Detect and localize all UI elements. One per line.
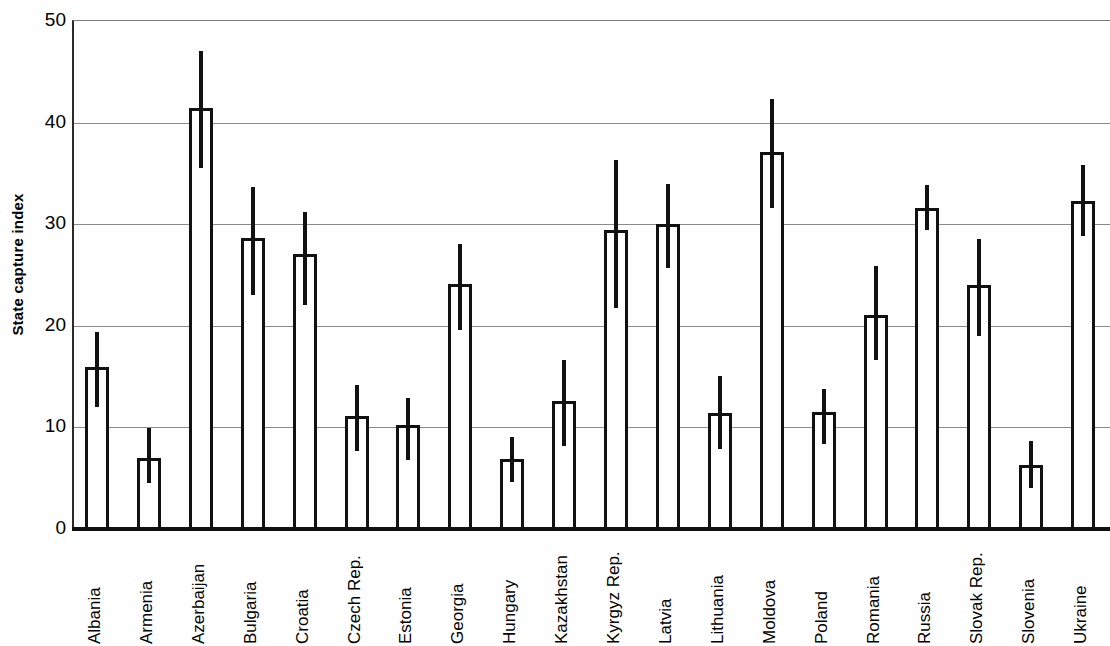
x-tick-label-text: Poland xyxy=(813,530,830,646)
error-bar-lithuania xyxy=(718,376,722,449)
x-tick-label-text: Romania xyxy=(865,530,882,646)
x-tick-label-text: Czech Rep. xyxy=(346,530,363,646)
gridline-30 xyxy=(74,224,1110,225)
x-tick-label-text: Georgia xyxy=(449,530,466,646)
x-axis-category-labels: AlbaniaArmeniaAzerbaijanBulgariaCroatiaC… xyxy=(72,532,1110,646)
error-bar-ukraine xyxy=(1081,165,1085,236)
error-bar-armenia xyxy=(147,428,151,483)
y-tick-label-0: 0 xyxy=(30,518,66,537)
error-bar-romania xyxy=(874,266,878,360)
error-bar-croatia xyxy=(303,212,307,305)
error-bar-czech-rep xyxy=(355,385,359,451)
x-tick-label-text: Bulgaria xyxy=(242,530,259,646)
gridline-20 xyxy=(74,326,1110,327)
plot-area xyxy=(72,20,1110,528)
error-bar-slovenia xyxy=(1029,441,1033,489)
x-tick-label-text: Latvia xyxy=(657,530,674,646)
x-tick-label-text: Lithuania xyxy=(709,530,726,646)
error-bar-azerbaijan xyxy=(199,51,203,168)
bar-moldova xyxy=(760,152,784,529)
error-bar-russia xyxy=(925,185,929,231)
y-tick-label-20: 20 xyxy=(30,315,66,334)
x-tick-label-text: Kyrgyz Rep. xyxy=(605,530,622,646)
error-bar-bulgaria xyxy=(251,187,255,296)
gridline-10 xyxy=(74,427,1110,428)
bar-latvia xyxy=(656,224,680,529)
error-bar-latvia xyxy=(666,184,670,268)
y-tick-label-50: 50 xyxy=(30,10,66,29)
error-bar-slovak-rep xyxy=(977,239,981,336)
bar-russia xyxy=(915,208,939,529)
x-tick-label-text: Estonia xyxy=(397,530,414,646)
bar-azerbaijan xyxy=(189,108,213,529)
error-bar-kyrgyz-rep xyxy=(614,160,618,307)
x-tick-label-text: Hungary xyxy=(501,530,518,646)
error-bar-georgia xyxy=(458,244,462,330)
bar-ukraine xyxy=(1071,201,1095,529)
state-capture-index-chart: State capture index 01020304050 AlbaniaA… xyxy=(0,0,1110,646)
error-bar-kazakhstan xyxy=(562,360,566,445)
y-tick-label-40: 40 xyxy=(30,112,66,131)
x-tick-label-ukraine: Ukraine xyxy=(1072,532,1110,646)
x-tick-label-text: Azerbaijan xyxy=(190,530,207,646)
error-bar-hungary xyxy=(510,437,514,483)
x-tick-label-text: Croatia xyxy=(294,530,311,646)
error-bar-poland xyxy=(822,389,826,444)
error-bar-albania xyxy=(95,332,99,407)
y-tick-label-30: 30 xyxy=(30,213,66,232)
x-tick-label-text: Ukraine xyxy=(1072,530,1089,646)
x-tick-label-text: Slovenia xyxy=(1020,530,1037,646)
error-bar-estonia xyxy=(406,398,410,460)
x-tick-label-text: Slovak Rep. xyxy=(968,530,985,646)
x-tick-label-text: Russia xyxy=(916,530,933,646)
x-tick-label-text: Armenia xyxy=(138,530,155,646)
x-tick-label-text: Albania xyxy=(86,530,103,646)
x-axis-baseline xyxy=(72,527,1110,531)
x-tick-label-text: Moldova xyxy=(761,530,778,646)
y-axis-tick-labels: 01020304050 xyxy=(0,0,66,560)
error-bar-moldova xyxy=(770,99,774,208)
y-tick-label-10: 10 xyxy=(30,416,66,435)
x-tick-label-text: Kazakhstan xyxy=(553,530,570,646)
gridline-40 xyxy=(74,123,1110,124)
